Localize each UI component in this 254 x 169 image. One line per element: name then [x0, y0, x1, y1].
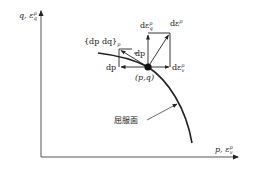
stress-point-dot — [144, 63, 151, 70]
x-axis-label: p, εpv — [215, 144, 234, 155]
dp-lower-label: dp — [106, 63, 116, 72]
yield-surface-leader — [147, 104, 177, 120]
strain-increment-vectors — [148, 33, 170, 67]
y-axis-label: q, εpq — [19, 10, 38, 22]
dp-upper-label: dp — [135, 49, 145, 58]
diagram-canvas: q, εpq p, εpv {dp dq}p dp dp — [0, 0, 254, 169]
yield-surface-diagram: q, εpq p, εpv {dp dq}p dp dp — [0, 0, 254, 169]
stress-increment-label: {dp dq}p — [84, 37, 121, 48]
axes — [41, 11, 238, 157]
d-eps-q-label: dεpq — [140, 20, 153, 32]
stress-point-label: (p,q) — [135, 73, 154, 82]
d-eps-label: dεp — [170, 18, 183, 28]
d-eps-v-label: dεpv — [172, 62, 185, 73]
yield-surface-label: 屈服面 — [114, 116, 138, 125]
